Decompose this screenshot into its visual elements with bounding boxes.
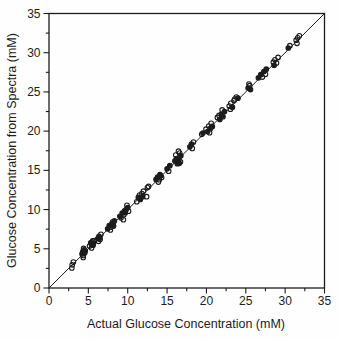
- y-tick-label: 10: [27, 203, 41, 217]
- scatter-plot: 0510152025303505101520253035 Actual Gluc…: [0, 0, 340, 340]
- y-tick-label: 35: [27, 7, 41, 21]
- x-axis-label: Actual Glucose Concentration (mM): [87, 317, 285, 331]
- data-point-filled: [221, 114, 226, 119]
- data-point-open: [146, 184, 151, 189]
- data-point-filled: [189, 142, 194, 147]
- y-tick-label: 15: [27, 163, 41, 177]
- x-tick-label: 30: [278, 294, 292, 308]
- data-point-filled: [158, 174, 163, 179]
- x-tick-label: 5: [85, 294, 92, 308]
- data-point-open: [295, 41, 300, 46]
- x-tick-label: 10: [121, 294, 135, 308]
- data-point-filled: [177, 161, 182, 166]
- data-point-filled: [168, 163, 173, 168]
- data-point-filled: [123, 210, 128, 215]
- data-point-filled: [112, 219, 117, 224]
- data-point-filled: [210, 124, 215, 129]
- x-tick-label: 15: [160, 294, 174, 308]
- data-point-filled: [83, 250, 88, 255]
- data-point-filled: [125, 205, 130, 210]
- data-point-filled: [140, 194, 145, 199]
- data-point-filled: [111, 224, 116, 229]
- data-point-filled: [230, 105, 235, 110]
- x-tick-label: 35: [318, 294, 332, 308]
- y-tick-label: 0: [34, 281, 41, 295]
- data-point-filled: [179, 154, 184, 159]
- data-point-filled: [91, 243, 96, 248]
- data-point-filled: [97, 235, 102, 240]
- y-tick-label: 25: [27, 85, 41, 99]
- data-point-filled: [222, 109, 227, 114]
- scatter-figure: 0510152025303505101520253035 Actual Gluc…: [0, 0, 340, 340]
- x-tick-label: 25: [239, 294, 253, 308]
- y-tick-label: 20: [27, 124, 41, 138]
- data-point-filled: [264, 67, 269, 72]
- data-point-filled: [201, 131, 206, 136]
- x-tick-label: 20: [200, 294, 214, 308]
- y-axis-label: Glucose Concentration from Spectra (mM): [5, 33, 19, 268]
- data-point-filled: [272, 63, 277, 68]
- data-point-filled: [248, 87, 253, 92]
- y-tick-label: 5: [34, 242, 41, 256]
- data-point-filled: [236, 96, 241, 101]
- x-tick-label: 0: [46, 294, 53, 308]
- data-point-filled: [286, 46, 291, 51]
- y-tick-label: 30: [27, 46, 41, 60]
